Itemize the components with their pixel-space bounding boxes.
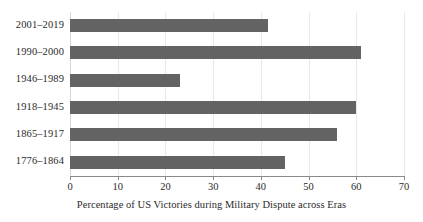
bar-row — [70, 12, 268, 39]
bar — [70, 156, 285, 169]
bar — [70, 74, 180, 87]
x-axis-tick-label: 10 — [112, 181, 123, 192]
x-axis-tick-mark — [404, 176, 405, 180]
x-axis-baseline — [70, 176, 404, 177]
x-axis-tick-label: 40 — [256, 181, 267, 192]
bar-row — [70, 67, 180, 94]
x-axis-tick-label: 30 — [208, 181, 219, 192]
x-axis-tick-mark — [356, 176, 357, 180]
y-axis-tick-label: 1990–2000 — [2, 46, 64, 57]
y-axis-tick-label: 1776–1864 — [2, 155, 64, 166]
x-axis-tick-mark — [70, 176, 71, 180]
bar-chart-figure: 1776–18641865–19171918–19451946–19891990… — [0, 0, 423, 222]
x-axis-tick-label: 50 — [303, 181, 314, 192]
bar — [70, 19, 268, 32]
bar — [70, 101, 356, 114]
x-axis-tick-label: 0 — [67, 181, 72, 192]
bar — [70, 46, 361, 59]
gridline — [404, 12, 405, 176]
gridline — [356, 12, 357, 176]
x-axis-tick-mark — [261, 176, 262, 180]
bar-row — [70, 94, 356, 121]
y-axis-tick-label: 2001–2019 — [2, 19, 64, 30]
x-axis-tick-mark — [309, 176, 310, 180]
x-axis-tick-mark — [165, 176, 166, 180]
bar — [70, 128, 337, 141]
bar-row — [70, 121, 337, 148]
x-axis-tick-label: 70 — [399, 181, 410, 192]
bar-row — [70, 39, 361, 66]
x-axis-tick-mark — [213, 176, 214, 180]
y-axis-tick-label: 1946–1989 — [2, 73, 64, 84]
x-axis-tick-label: 20 — [160, 181, 171, 192]
x-axis-tick-mark — [118, 176, 119, 180]
x-axis-caption: Percentage of US Victories during Milita… — [0, 199, 423, 210]
bar-row — [70, 149, 285, 176]
x-axis-tick-label: 60 — [351, 181, 362, 192]
plot-area — [70, 12, 404, 176]
y-axis-category-labels: 1776–18641865–19171918–19451946–19891990… — [0, 12, 64, 176]
y-axis-tick-label: 1865–1917 — [2, 128, 64, 139]
y-axis-tick-label: 1918–1945 — [2, 101, 64, 112]
